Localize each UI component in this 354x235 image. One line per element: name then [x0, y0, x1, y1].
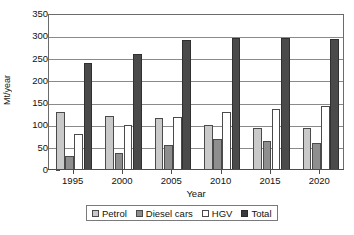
- bar-hgv-1995: [74, 134, 83, 170]
- x-axis-tick-label: 2020: [299, 175, 339, 186]
- bar-diesel-cars-2020: [312, 143, 321, 170]
- x-axis-tick-label: 2005: [151, 175, 191, 186]
- bar-total-2000: [133, 54, 142, 170]
- bar-hgv-2010: [222, 112, 231, 170]
- y-axis-tick-label: 0: [22, 165, 48, 175]
- bar-total-2020: [330, 39, 339, 170]
- legend-swatch-icon: [92, 210, 99, 217]
- legend-label: Total: [251, 208, 271, 219]
- bar-petrol-2010: [204, 125, 213, 170]
- bars-layer: [48, 14, 344, 170]
- x-axis-tick-mark: [171, 170, 172, 174]
- bar-total-2010: [232, 38, 241, 170]
- bar-hgv-2015: [272, 109, 281, 170]
- bar-total-2005: [182, 40, 191, 170]
- legend-label: Petrol: [102, 208, 127, 219]
- x-axis-tick-mark: [270, 170, 271, 174]
- bar-petrol-2005: [155, 118, 164, 170]
- bar-petrol-2000: [105, 116, 114, 170]
- bar-total-2015: [281, 38, 290, 170]
- legend-item-diesel-cars[interactable]: Diesel cars: [136, 208, 193, 219]
- bar-chart: Mt/year 050100150200250300350 1995200020…: [0, 0, 354, 235]
- legend-swatch-icon: [202, 210, 209, 217]
- y-axis-tick-label: 250: [22, 54, 48, 64]
- bar-group: [295, 14, 344, 170]
- bar-group: [245, 14, 294, 170]
- bar-hgv-2000: [124, 125, 133, 170]
- x-axis-tick-label: 1995: [53, 175, 93, 186]
- x-axis-tick-mark: [122, 170, 123, 174]
- x-axis-tick-label: 2015: [250, 175, 290, 186]
- legend-swatch-icon: [241, 210, 248, 217]
- legend: PetrolDiesel carsHGVTotal: [86, 205, 278, 221]
- y-axis-tick-mark: [56, 170, 60, 171]
- bar-group: [48, 14, 97, 170]
- legend-label: HGV: [212, 208, 233, 219]
- bar-diesel-cars-2000: [115, 153, 124, 170]
- x-axis-title: Year: [48, 188, 344, 199]
- x-axis-tick-mark: [73, 170, 74, 174]
- y-axis-tick-label: 150: [22, 98, 48, 108]
- x-axis-tick-label: 2000: [102, 175, 142, 186]
- bar-group: [147, 14, 196, 170]
- y-axis-tick-labels: 050100150200250300350: [14, 0, 48, 235]
- x-axis-tick-mark: [319, 170, 320, 174]
- bar-group: [196, 14, 245, 170]
- bar-petrol-2020: [303, 128, 312, 170]
- x-axis-line: [48, 169, 344, 170]
- bar-diesel-cars-2005: [164, 145, 173, 170]
- y-axis-tick-label: 200: [22, 76, 48, 86]
- legend-item-petrol[interactable]: Petrol: [92, 208, 127, 219]
- x-axis-tick-mark: [221, 170, 222, 174]
- bar-total-1995: [84, 63, 93, 170]
- y-axis-tick-label: 350: [22, 9, 48, 19]
- bar-petrol-1995: [56, 112, 65, 170]
- bar-petrol-2015: [253, 128, 262, 170]
- legend-swatch-icon: [136, 210, 143, 217]
- bar-hgv-2005: [173, 117, 182, 170]
- y-axis-tick-label: 300: [22, 31, 48, 41]
- y-axis-tick-label: 100: [22, 120, 48, 130]
- legend-item-hgv[interactable]: HGV: [202, 208, 233, 219]
- bar-group: [97, 14, 146, 170]
- legend-label: Diesel cars: [146, 208, 193, 219]
- bar-diesel-cars-2010: [213, 139, 222, 170]
- legend-item-total[interactable]: Total: [241, 208, 271, 219]
- x-axis-tick-label: 2010: [201, 175, 241, 186]
- bar-diesel-cars-2015: [263, 141, 272, 170]
- bar-diesel-cars-1995: [65, 156, 74, 170]
- y-axis-tick-label: 50: [22, 143, 48, 153]
- bar-hgv-2020: [321, 106, 330, 170]
